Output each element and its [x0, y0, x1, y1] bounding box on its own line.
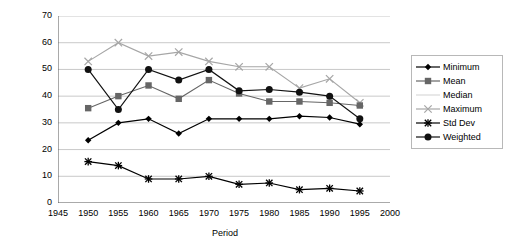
series-line-weighted: [88, 69, 360, 118]
y-tick-40: 40: [26, 90, 52, 100]
legend-key-diamond-icon: [415, 60, 441, 74]
datapoint-std-dev-1965: [175, 175, 183, 183]
legend-key-none-icon: [415, 88, 441, 102]
y-tick-10: 10: [26, 170, 52, 180]
legend-key-circle-icon: [415, 130, 441, 144]
x-axis-title: Period: [165, 228, 285, 238]
datapoint-mean-1985: [296, 98, 302, 104]
plot-area: [58, 16, 390, 203]
y-tick-60: 60: [26, 37, 52, 47]
x-tick-1990: 1990: [313, 208, 347, 218]
datapoint-weighted-1950: [85, 66, 92, 73]
datapoint-minimum-1970: [206, 116, 212, 122]
datapoint-minimum-1985: [296, 113, 302, 119]
datapoint-minimum-1965: [176, 130, 182, 136]
legend-marker: [425, 64, 431, 70]
datapoint-weighted-1965: [175, 77, 182, 84]
y-tick-70: 70: [26, 10, 52, 20]
datapoint-minimum-1990: [326, 114, 332, 120]
legend-label: Maximum: [441, 104, 482, 114]
x-tick-1995: 1995: [343, 208, 377, 218]
legend-label: Minimum: [441, 62, 480, 72]
x-tick-1975: 1975: [222, 208, 256, 218]
datapoint-std-dev-1960: [145, 175, 153, 183]
datapoint-weighted-1985: [296, 89, 303, 96]
datapoint-mean-1960: [145, 82, 151, 88]
chart-canvas: [58, 16, 390, 203]
datapoint-weighted-1955: [115, 106, 122, 113]
y-tick-20: 20: [26, 144, 52, 154]
legend-entry-minimum[interactable]: Minimum: [415, 60, 498, 74]
chart-figure: Gini coefficient 010203040506070 1945195…: [0, 0, 515, 252]
legend-label: Mean: [441, 76, 466, 86]
datapoint-mean-1950: [85, 105, 91, 111]
datapoint-minimum-1975: [236, 116, 242, 122]
y-tick-30: 30: [26, 117, 52, 127]
legend-entry-weighted[interactable]: Weighted: [415, 130, 498, 144]
legend-label: Median: [441, 90, 473, 100]
chart-legend: MinimumMeanMedianMaximumStd DevWeighted: [411, 55, 503, 149]
legend-entry-std-dev[interactable]: Std Dev: [415, 116, 498, 130]
series-line-maximum: [88, 43, 360, 103]
datapoint-mean-1955: [115, 93, 121, 99]
datapoint-minimum-1950: [85, 137, 91, 143]
series-line-minimum: [88, 116, 360, 140]
datapoint-weighted-1990: [326, 93, 333, 100]
x-tick-1950: 1950: [71, 208, 105, 218]
datapoint-mean-1995: [357, 102, 363, 108]
datapoint-weighted-1975: [236, 87, 243, 94]
datapoint-maximum-1990: [326, 75, 333, 82]
x-tick-1970: 1970: [192, 208, 226, 218]
legend-entry-median[interactable]: Median: [415, 88, 498, 102]
datapoint-std-dev-1995: [356, 187, 364, 195]
legend-marker: [425, 78, 431, 84]
datapoint-minimum-1960: [145, 116, 151, 122]
datapoint-mean-1970: [206, 77, 212, 83]
legend-label: Weighted: [441, 132, 481, 142]
x-tick-1960: 1960: [132, 208, 166, 218]
datapoint-weighted-1980: [266, 86, 273, 93]
datapoint-maximum-1950: [84, 58, 91, 65]
datapoint-std-dev-1990: [326, 185, 334, 193]
legend-label: Std Dev: [441, 118, 475, 128]
y-tick-50: 50: [26, 63, 52, 73]
legend-marker: [425, 134, 432, 141]
legend-entry-maximum[interactable]: Maximum: [415, 102, 498, 116]
x-tick-1945: 1945: [41, 208, 75, 218]
legend-marker: [424, 119, 432, 127]
datapoint-std-dev-1975: [235, 181, 243, 189]
datapoint-weighted-1960: [145, 66, 152, 73]
datapoint-std-dev-1955: [115, 162, 123, 170]
legend-key-square-icon: [415, 74, 441, 88]
datapoint-weighted-1995: [356, 115, 363, 122]
x-tick-1985: 1985: [282, 208, 316, 218]
x-tick-1955: 1955: [101, 208, 135, 218]
datapoint-std-dev-1970: [205, 172, 213, 180]
datapoint-mean-1965: [176, 96, 182, 102]
datapoint-mean-1980: [266, 98, 272, 104]
x-tick-1980: 1980: [252, 208, 286, 218]
x-tick-2000: 2000: [373, 208, 407, 218]
datapoint-std-dev-1950: [84, 158, 92, 166]
x-tick-1965: 1965: [162, 208, 196, 218]
datapoint-minimum-1980: [266, 116, 272, 122]
legend-entry-mean[interactable]: Mean: [415, 74, 498, 88]
datapoint-mean-1990: [326, 100, 332, 106]
datapoint-minimum-1955: [115, 120, 121, 126]
datapoint-std-dev-1985: [296, 186, 304, 194]
datapoint-std-dev-1980: [265, 179, 273, 187]
datapoint-weighted-1970: [205, 66, 212, 73]
legend-key-cross-x-icon: [415, 102, 441, 116]
legend-key-star-icon: [415, 116, 441, 130]
y-tick-0: 0: [26, 197, 52, 207]
